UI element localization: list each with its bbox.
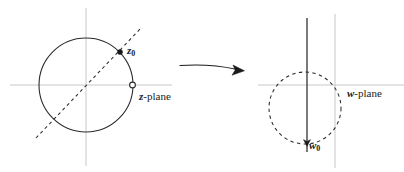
z-plane-suffix: -plane	[143, 90, 170, 102]
w0-label: w0	[309, 140, 320, 153]
mapping-arrow-head	[232, 65, 245, 75]
z0-label: z0	[127, 45, 135, 58]
w0-subscript: 0	[316, 144, 320, 153]
z-plane-label: z-plane	[139, 91, 171, 102]
w-plane-dashed-circle	[269, 72, 341, 144]
z-plane-anchor-marker	[130, 82, 136, 88]
left-panel-z-plane	[10, 8, 172, 166]
figure-root: z0 z-plane w0 w-plane	[0, 0, 404, 172]
w-plane-suffix: -plane	[354, 87, 381, 99]
figure-canvas	[0, 0, 404, 172]
right-panel-w-plane	[258, 14, 404, 168]
w-plane-label: w-plane	[347, 88, 382, 99]
z0-subscript: 0	[131, 49, 135, 58]
mapping-arrow-shaft	[180, 65, 236, 69]
mapping-arrow	[180, 65, 245, 75]
z0-point-marker	[118, 50, 123, 55]
